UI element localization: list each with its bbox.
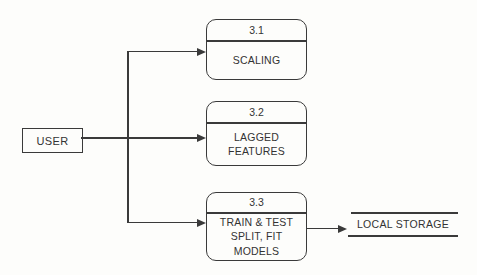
process-box-scaling: 3.1 SCALING bbox=[206, 19, 307, 80]
arrowhead-into-process-3-1 bbox=[197, 48, 206, 56]
datastore-label: LOCAL STORAGE bbox=[348, 213, 458, 235]
user-label: USER bbox=[37, 135, 69, 147]
connector-user-to-branch bbox=[81, 137, 198, 139]
process-box-train-test-split: 3.3 TRAIN & TEST SPLIT, FIT MODELS bbox=[206, 192, 307, 261]
dataflow-diagram: USER 3.1 SCALING 3.2 LAGGED FEATURES 3.3… bbox=[0, 0, 477, 275]
arrowhead-into-process-3-2 bbox=[197, 134, 206, 142]
process-name-line: MODELS bbox=[234, 244, 280, 259]
process-box-lagged-features: 3.2 LAGGED FEATURES bbox=[206, 101, 307, 166]
connector-branch-to-process-3-3 bbox=[127, 222, 198, 224]
datastore-bottom-line bbox=[348, 235, 458, 237]
process-name-lagged-features: LAGGED FEATURES bbox=[207, 124, 306, 165]
connector-branch-vertical bbox=[127, 51, 129, 223]
external-entity-user: USER bbox=[22, 128, 83, 153]
process-number-3-2: 3.2 bbox=[207, 102, 306, 124]
process-name-line: SPLIT, FIT bbox=[231, 229, 283, 244]
connector-branch-to-process-3-1 bbox=[127, 51, 198, 53]
datastore-local-storage: LOCAL STORAGE bbox=[348, 206, 458, 238]
process-name-train-test-split: TRAIN & TEST SPLIT, FIT MODELS bbox=[207, 214, 306, 261]
process-name-line: SCALING bbox=[233, 53, 281, 68]
process-name-line: FEATURES bbox=[228, 144, 285, 159]
process-name-line: LAGGED bbox=[234, 130, 279, 145]
connector-process-3-3-to-datastore bbox=[307, 228, 339, 230]
arrowhead-into-process-3-3 bbox=[197, 219, 206, 227]
process-number-3-1: 3.1 bbox=[207, 20, 306, 42]
process-name-line: TRAIN & TEST bbox=[220, 215, 293, 230]
process-name-scaling: SCALING bbox=[207, 42, 306, 79]
arrowhead-into-datastore bbox=[338, 225, 347, 233]
process-number-3-3: 3.3 bbox=[207, 193, 306, 214]
